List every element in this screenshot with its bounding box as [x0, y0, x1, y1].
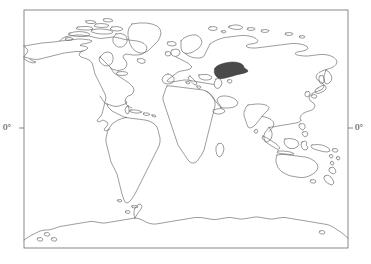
coastline-kamchatka — [324, 70, 332, 84]
coastline-british-isles — [171, 49, 180, 57]
central-asia-highlight-shape — [214, 62, 248, 79]
coastline-philippines-2 — [302, 132, 308, 138]
coastline-arctic-russia-island-1 — [247, 28, 255, 31]
coastline-antarctic-island-3 — [51, 238, 57, 242]
coastline-papua-island-1 — [332, 149, 338, 153]
coastline-usa-east — [110, 67, 134, 108]
coastline-sulawesi — [301, 141, 308, 150]
coastline-japan-south — [311, 95, 317, 99]
coastline-scandinavia — [181, 35, 202, 54]
map-coastlines — [24, 19, 348, 242]
coastline-arabia — [217, 96, 238, 108]
coastline-arctic-russia-island-2 — [261, 30, 269, 33]
highlight-region-group — [214, 62, 248, 79]
coastline-newfoundland — [137, 59, 145, 64]
coastline-baltic — [185, 44, 210, 58]
equator-label-right: 0° — [355, 123, 363, 132]
coastline-iberia — [162, 74, 174, 84]
map-frame — [24, 10, 348, 248]
coastline-arctic-islands-8 — [103, 19, 113, 23]
coastline-madagascar — [216, 143, 224, 157]
coastline-novaya-zemlya — [228, 25, 243, 30]
coastline-mediterranean-islands-2 — [197, 86, 201, 89]
coastline-arctic-islands-7 — [86, 21, 96, 24]
coastline-greenland — [128, 23, 161, 53]
coastline-tasmania — [310, 180, 316, 184]
map-frame-group — [19, 10, 353, 248]
coastline-australia — [276, 155, 318, 178]
coastline-florida — [125, 106, 129, 114]
coastline-borneo — [284, 139, 299, 149]
coastline-arctic-island-small-1 — [221, 31, 226, 34]
coastline-antarctic-island-2 — [37, 238, 43, 242]
coastline-indochina — [262, 117, 274, 132]
coastline-arctic-islands-5 — [110, 27, 123, 32]
coastline-great-lakes — [116, 72, 128, 76]
coastline-svalbard — [208, 27, 217, 31]
world-map-figure: 0° 0° — [0, 0, 371, 264]
coastline-india — [244, 104, 269, 128]
coastline-antarctic-island-6 — [319, 231, 325, 235]
coastline-pacific-island-2 — [336, 157, 340, 161]
coastline-caspian-sea — [214, 79, 222, 89]
coastline-antarctic-island-4 — [125, 211, 130, 214]
coastline-philippines-1 — [299, 124, 305, 131]
coastline-iceland — [167, 42, 176, 47]
coastline-antarctic-island-5 — [117, 200, 122, 203]
coastline-pacific-island-1 — [329, 155, 333, 159]
coastline-horn-of-africa — [213, 109, 225, 115]
coastline-caribbean-1 — [152, 115, 156, 117]
coastline-central-america — [107, 104, 126, 118]
coastline-aral-sea — [227, 80, 232, 84]
coastline-alaska-peninsula — [24, 59, 36, 63]
coastline-arctic-islands-3 — [76, 27, 93, 31]
equator-label-left: 0° — [3, 123, 11, 132]
world-map-svg — [0, 0, 371, 264]
coastline-new-zealand-south — [324, 175, 334, 185]
coastline-south-america — [106, 118, 160, 204]
coastline-hispaniola — [143, 113, 150, 116]
coastline-antarctic-island-1 — [44, 233, 50, 237]
coastline-japan — [315, 85, 326, 94]
coastline-pacific-island-3 — [330, 162, 334, 166]
coastline-hudson-bay — [99, 52, 113, 66]
coastline-black-sea — [199, 75, 212, 81]
coastline-arctic-islands-4 — [94, 24, 109, 28]
coastline-ireland — [165, 52, 171, 57]
coastline-red-sea — [206, 91, 221, 108]
coastline-korea — [305, 92, 310, 98]
coastline-alaska — [24, 46, 28, 57]
coastline-arctic-islands-2 — [91, 29, 113, 34]
coastline-arctic-russia-island-4 — [299, 36, 305, 39]
coastline-sri-lanka — [254, 130, 258, 134]
coastline-sumatra — [262, 136, 280, 150]
coastline-antarctic-peninsula — [134, 204, 142, 218]
coastline-java — [277, 151, 294, 155]
coastline-baffin-island — [113, 34, 127, 48]
coastline-arctic-russia-island-3 — [285, 33, 293, 36]
coastline-mediterranean-islands-1 — [186, 82, 190, 85]
coastline-antarctica — [24, 217, 348, 240]
coastline-cuba — [129, 110, 142, 113]
coastline-gulf-mexico — [107, 101, 127, 107]
coastline-alaska-south — [24, 51, 83, 60]
coastline-new-guinea — [311, 145, 330, 153]
coastline-new-zealand-north — [329, 167, 336, 174]
coastline-africa — [163, 86, 215, 163]
